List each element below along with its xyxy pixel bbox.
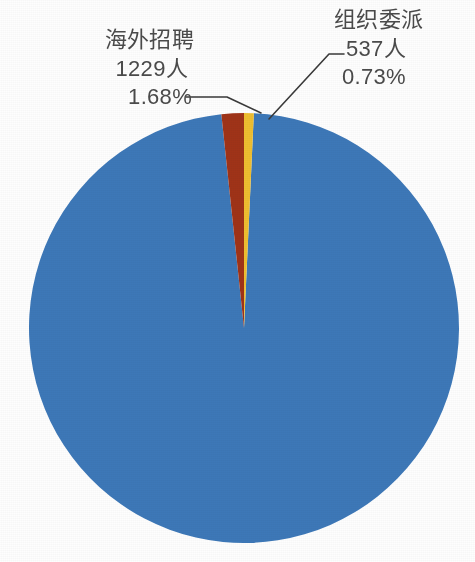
callout-left-name: 海外招聘 xyxy=(8,26,194,55)
callout-left-percent: 1.68% xyxy=(8,83,194,112)
callout-right-percent: 0.73% xyxy=(332,63,470,92)
callout-label-organization-assignment: 组织委派 537人 0.73% xyxy=(332,6,470,92)
callout-right-count: 537人 xyxy=(332,35,470,64)
callout-right-name: 组织委派 xyxy=(332,6,470,35)
callout-label-overseas-recruitment: 海外招聘 1229人 1.68% xyxy=(8,26,194,112)
pie-chart-figure: 海外招聘 1229人 1.68% 组织委派 537人 0.73% xyxy=(0,0,475,562)
callout-left-count: 1229人 xyxy=(8,55,194,84)
leader-line-overseas-recruitment xyxy=(186,97,261,113)
